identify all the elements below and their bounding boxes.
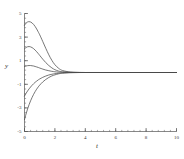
x-tick-label: 10: [173, 135, 180, 140]
y-tick-label: 1: [13, 58, 22, 63]
x-tick-label: 8: [143, 135, 150, 140]
y-axis-label: y: [5, 63, 8, 70]
y-tick-label: -3: [13, 105, 22, 110]
y-tick-label: 5: [13, 11, 22, 16]
x-tick-label: 6: [112, 135, 119, 140]
x-tick-label: 2: [51, 135, 58, 140]
y-tick-label: -5: [13, 129, 22, 134]
x-tick-label: 4: [82, 135, 89, 140]
y-tick-label: 3: [13, 35, 22, 40]
x-axis-label: t: [96, 143, 98, 150]
figure-container: y t 0246810 531-1-3-5: [0, 0, 184, 159]
x-tick-label: 0: [21, 135, 28, 140]
y-tick-label: -1: [13, 82, 22, 87]
